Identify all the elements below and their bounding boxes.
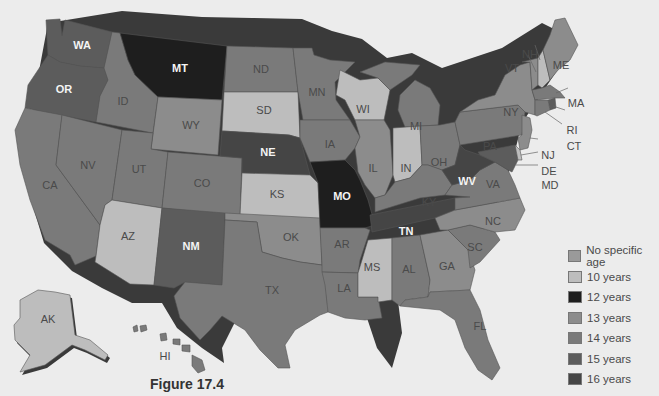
figure-caption: Figure 17.4 [150, 376, 224, 392]
label-ri: RI [567, 124, 578, 136]
label-vt: VT [505, 62, 519, 74]
label-la: LA [337, 282, 351, 294]
legend-item-10-years: 10 years [568, 267, 659, 288]
label-mi: MI [410, 120, 422, 132]
legend-label: 16 years [587, 373, 631, 385]
label-de: DE [541, 165, 556, 177]
label-tn: TN [399, 225, 414, 237]
label-nm: NM [182, 240, 199, 252]
label-oh: OH [431, 156, 448, 168]
legend-item-12-years: 12 years [568, 287, 659, 308]
label-sc: SC [467, 241, 482, 253]
label-nj: NJ [541, 149, 554, 161]
legend: No specific age 10 years 12 years 13 yea… [568, 246, 659, 390]
label-ma: MA [568, 97, 585, 109]
label-mo: MO [333, 190, 351, 202]
label-ut: UT [132, 163, 147, 175]
label-ne: NE [260, 146, 275, 158]
label-ok: OK [283, 231, 300, 243]
label-wv: WV [458, 175, 476, 187]
legend-swatch [568, 373, 582, 385]
label-ia: IA [325, 138, 336, 150]
legend-item-14-years: 14 years [568, 328, 659, 349]
label-mn: MN [308, 86, 325, 98]
legend-item-16-years: 16 years [568, 369, 659, 390]
label-ks: KS [270, 188, 285, 200]
label-mt: MT [172, 62, 188, 74]
label-il: IL [368, 162, 377, 174]
legend-swatch [568, 332, 582, 344]
label-id: ID [118, 95, 129, 107]
label-nv: NV [80, 159, 96, 171]
legend-label: No specific age [586, 244, 659, 268]
label-ky: KY [422, 196, 437, 208]
label-ct: CT [567, 140, 582, 152]
label-ms: MS [364, 261, 381, 273]
label-pa: PA [483, 140, 498, 152]
legend-item-15-years: 15 years [568, 349, 659, 370]
legend-item-13-years: 13 years [568, 308, 659, 329]
label-wy: WY [182, 119, 200, 131]
state-ak[interactable] [14, 290, 110, 375]
label-ga: GA [439, 260, 456, 272]
label-hi: HI [160, 350, 171, 362]
label-wa: WA [73, 39, 91, 51]
label-me: ME [553, 59, 570, 71]
label-or: OR [56, 83, 73, 95]
legend-label: 12 years [587, 291, 631, 303]
label-wi: WI [356, 103, 369, 115]
us-map: WA OR CA NV ID MT WY UT CO AZ NM ND SD N… [0, 0, 659, 396]
legend-label: 14 years [587, 332, 631, 344]
label-tx: TX [265, 284, 280, 296]
legend-swatch [568, 353, 582, 365]
label-al: AL [402, 263, 415, 275]
label-az: AZ [121, 230, 135, 242]
label-nh: NH [522, 48, 538, 60]
legend-label: 10 years [587, 271, 631, 283]
label-ny: NY [503, 106, 519, 118]
legend-swatch [568, 312, 582, 324]
state-fl[interactable] [400, 290, 500, 380]
legend-label: 15 years [587, 353, 631, 365]
label-fl: FL [474, 320, 487, 332]
label-in: IN [401, 162, 412, 174]
label-va: VA [486, 178, 501, 190]
label-nc: NC [485, 215, 501, 227]
label-co: CO [194, 177, 211, 189]
label-ca: CA [42, 179, 58, 191]
legend-swatch [568, 271, 582, 283]
label-md: MD [541, 179, 558, 191]
label-sd: SD [256, 104, 271, 116]
legend-label: 13 years [587, 312, 631, 324]
legend-swatch [568, 291, 582, 303]
label-ar: AR [334, 238, 349, 250]
label-nd: ND [253, 63, 269, 75]
legend-swatch [568, 250, 581, 262]
legend-item-no-specific-age: No specific age [568, 246, 659, 267]
label-ak: AK [41, 313, 56, 325]
